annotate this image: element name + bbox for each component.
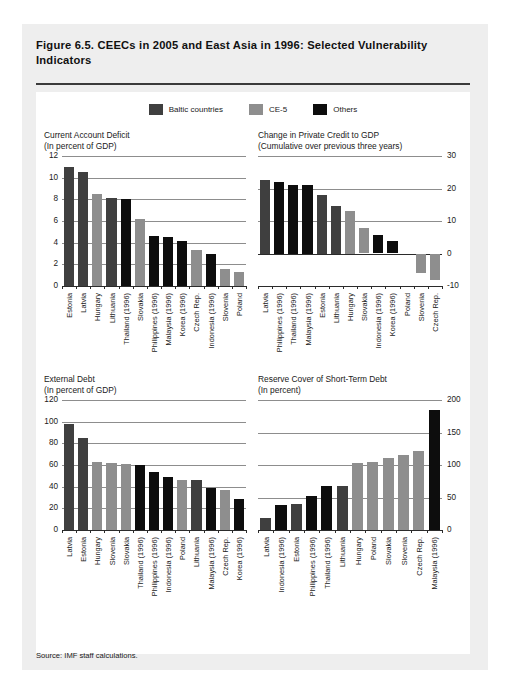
bar-slot <box>147 156 161 286</box>
x-category-label: Philippines (1996) <box>150 293 159 352</box>
x-category-label: Thailand (1996) <box>289 293 298 345</box>
y-tick-label: 12 <box>44 152 58 160</box>
bar <box>302 185 312 253</box>
x-category-slot: Poland <box>400 291 414 361</box>
legend-item-baltic: Baltic countries <box>149 104 223 115</box>
x-category-slot: Slovakia <box>357 291 371 361</box>
x-category-label: Poland <box>178 537 187 560</box>
bar-slot <box>204 400 218 530</box>
x-category-slot: Malaysia (1996) <box>300 291 314 361</box>
x-category-label: Korea (1996) <box>234 537 243 580</box>
x-category-slot: Indonesia (1996) <box>161 535 175 605</box>
y-tick-label: 20 <box>44 504 58 512</box>
x-category-slot: Slovenia <box>396 535 411 605</box>
bar-slot <box>335 400 350 530</box>
bar-slot <box>396 400 411 530</box>
x-category-label: Czech Rep. <box>192 293 201 332</box>
y-tick-label: 8 <box>44 195 58 203</box>
bar-slot <box>272 156 286 286</box>
bar-slot <box>350 400 365 530</box>
x-category-label: Thailand (1996) <box>322 537 331 589</box>
x-category-slot: Lithuania <box>189 535 203 605</box>
bar-slot <box>357 156 371 286</box>
legend-label-baltic: Baltic countries <box>169 105 223 114</box>
bar-slot <box>232 156 246 286</box>
x-category-label: Hungary <box>93 537 102 565</box>
chart-change-private-credit-to-gdp: Change in Private Credit to GDP (Cumulat… <box>258 130 464 344</box>
bar-series <box>258 156 442 286</box>
bar-slot <box>90 156 104 286</box>
bar-slot <box>304 400 319 530</box>
bar-slot <box>161 156 175 286</box>
bar-slot <box>104 156 118 286</box>
x-category-slot: Czech Rep. <box>428 291 442 361</box>
x-category-slot: Latvia <box>62 535 76 605</box>
x-category-labels: LatviaPhilippines (1996)Thailand (1996)M… <box>258 291 442 361</box>
x-category-slot: Philippines (1996) <box>147 291 161 361</box>
x-category-slot: Malaysia (1996) <box>204 535 218 605</box>
legend-item-others: Others <box>313 104 357 115</box>
bar <box>177 480 187 530</box>
x-category-label: Hungary <box>346 293 355 321</box>
x-category-label: Lithuania <box>331 293 340 323</box>
x-category-label: Korea (1996) <box>388 293 397 336</box>
bar <box>135 219 145 286</box>
legend-swatch-icon-ce5 <box>249 104 263 115</box>
x-category-label: Lithuania <box>192 537 201 567</box>
x-category-label: Malaysia (1996) <box>164 293 173 346</box>
x-category-label: Czech Rep. <box>220 537 229 576</box>
bar <box>260 518 271 530</box>
x-category-label: Hungary <box>353 537 362 565</box>
x-category-label: Thailand (1996) <box>135 537 144 589</box>
bar <box>191 250 201 286</box>
x-category-label: Estonia <box>292 537 301 562</box>
x-category-label: Philippines (1996) <box>150 537 159 596</box>
chart-reserve-cover-short-term-debt: Reserve Cover of Short-Term Debt (In per… <box>258 374 464 588</box>
bar <box>121 464 131 530</box>
x-category-label: Estonia <box>317 293 326 318</box>
bar <box>78 172 88 286</box>
bar <box>413 451 424 530</box>
x-category-slot: Thailand (1996) <box>286 291 300 361</box>
plot-area <box>258 156 442 286</box>
bar-slot <box>161 400 175 530</box>
y-tick-label: 80 <box>44 439 58 447</box>
chart-external-debt: External Debt (In percent of GDP)0204060… <box>44 374 250 588</box>
x-category-label: Thailand (1996) <box>121 293 130 345</box>
bar <box>367 462 378 530</box>
x-category-label: Slovakia <box>135 293 144 321</box>
chart-title: Change in Private Credit to GDP (Cumulat… <box>258 130 464 151</box>
x-category-slot: Hungary <box>90 535 104 605</box>
legend-swatch-icon-others <box>313 104 327 115</box>
y-tick-label: -10 <box>447 282 459 290</box>
x-category-label: Slovakia <box>121 537 130 565</box>
x-category-label: Slovenia <box>416 293 425 321</box>
x-category-slot: Latvia <box>258 535 273 605</box>
bar-slot <box>427 400 442 530</box>
bar <box>121 199 131 286</box>
y-tick-label: 150 <box>447 429 461 437</box>
x-category-slot: Slovenia <box>414 291 428 361</box>
x-category-slot: Indonesia (1996) <box>371 291 385 361</box>
bar <box>345 211 355 253</box>
x-category-slot: Lithuania <box>104 291 118 361</box>
figure-card: Figure 6.5. CEECs in 2005 and East Asia … <box>22 24 488 670</box>
bar-slot <box>104 400 118 530</box>
bar-series <box>62 156 246 286</box>
bar-series <box>62 400 246 530</box>
x-category-slot: Estonia <box>62 291 76 361</box>
x-category-slot: Estonia <box>289 535 304 605</box>
bar <box>106 463 116 530</box>
x-category-slot: Thailand (1996) <box>133 535 147 605</box>
y-tick-label: 40 <box>44 483 58 491</box>
x-category-slot: Philippines (1996) <box>272 291 286 361</box>
bar-slot <box>343 156 357 286</box>
bar-slot <box>133 156 147 286</box>
y-tick-label: 20 <box>447 185 456 193</box>
bar-slot <box>273 400 288 530</box>
bar <box>317 195 327 254</box>
legend-item-ce5: CE-5 <box>249 104 287 115</box>
x-category-slot: Indonesia (1996) <box>273 535 288 605</box>
bar <box>64 167 74 286</box>
x-category-label: Estonia <box>79 537 88 562</box>
